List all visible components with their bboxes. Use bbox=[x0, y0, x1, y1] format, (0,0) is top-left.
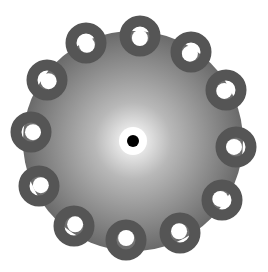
ring-hole bbox=[132, 30, 148, 46]
ring-hole bbox=[226, 139, 242, 155]
ring-hole bbox=[216, 83, 232, 99]
ring-hole bbox=[212, 191, 228, 207]
gear-disc-image bbox=[0, 0, 268, 272]
ring-hole bbox=[79, 37, 95, 53]
ring-hole bbox=[67, 216, 83, 232]
ring-hole bbox=[118, 230, 134, 246]
ring-hole bbox=[171, 223, 187, 239]
ring-hole bbox=[25, 124, 41, 140]
center-dot bbox=[127, 135, 139, 147]
ring-hole bbox=[33, 177, 49, 193]
ring-hole bbox=[41, 73, 57, 89]
ring-hole bbox=[182, 46, 198, 62]
